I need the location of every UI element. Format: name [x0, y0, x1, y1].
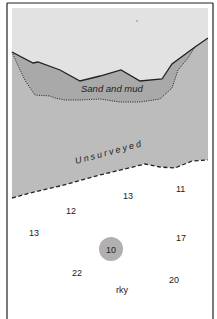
sand-and-mud-label: Sand and mud — [81, 83, 144, 94]
sounding: 22 — [72, 268, 82, 278]
sounding: 12 — [66, 206, 76, 216]
sounding: 13 — [29, 228, 39, 238]
sounding: 17 — [176, 233, 186, 243]
land-speck — [136, 20, 137, 21]
sounding: 11 — [176, 184, 185, 194]
nautical-chart: Sand and mud Unsurveyed 13 11 12 13 17 2… — [0, 0, 217, 319]
sounding: 13 — [123, 191, 133, 201]
sounding: 20 — [169, 275, 179, 285]
rocky-label: rky — [116, 285, 128, 295]
rock-sounding: 10 — [106, 245, 116, 255]
